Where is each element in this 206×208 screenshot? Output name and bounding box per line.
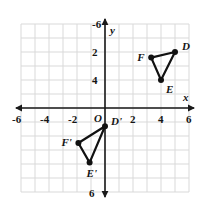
vertex-label: E'	[87, 168, 97, 179]
vertex-label: D'	[111, 116, 122, 127]
coordinate-plane-figure: DEFD'E'F'-6-4-2246-6246Oxy	[0, 0, 206, 208]
y-tick-label: 6	[89, 188, 95, 199]
vertex-label: F'	[61, 137, 71, 148]
y-tick-label: 2	[92, 47, 98, 58]
x-axis-arrow-left	[15, 105, 22, 112]
vertex-point	[102, 123, 108, 129]
vertex-label: F	[137, 52, 144, 63]
triangle-outline	[78, 126, 105, 162]
x-axis-arrow-right	[188, 105, 195, 112]
vertex-point	[148, 55, 154, 61]
x-axis-label: x	[183, 92, 189, 103]
x-tick-label: 4	[158, 114, 164, 125]
vertex-point	[158, 77, 164, 83]
vertex-point	[87, 160, 93, 166]
coordinate-grid-svg	[0, 0, 206, 208]
origin-label: O	[94, 113, 102, 124]
y-tick-label: 4	[92, 75, 98, 86]
vertex-point	[75, 140, 81, 146]
axes	[15, 18, 195, 198]
y-axis-arrow-up	[102, 18, 109, 25]
x-tick-label: -6	[12, 114, 21, 125]
y-tick-label: -6	[92, 19, 101, 30]
x-tick-label: -2	[68, 114, 77, 125]
x-tick-label: -4	[40, 114, 49, 125]
y-axis-arrow-down	[102, 191, 109, 198]
vertex-label: D	[182, 41, 190, 52]
vertex-point	[172, 49, 178, 55]
x-tick-label: 2	[130, 114, 136, 125]
x-tick-label: 6	[186, 114, 192, 125]
vertex-label: E	[166, 84, 173, 95]
y-axis-label: y	[110, 25, 115, 36]
